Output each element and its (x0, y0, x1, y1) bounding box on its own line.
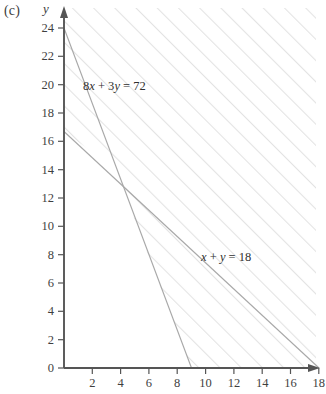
eq2-tail: = 18 (225, 250, 251, 264)
equation-label-8x-3y-72: 8x + 3y = 72 (83, 79, 146, 94)
x-tick-label-8: 8 (174, 376, 180, 391)
x-tick-label-6: 6 (146, 376, 152, 391)
x-tick-label-12: 12 (228, 376, 241, 391)
x-tick-label-18: 18 (313, 376, 326, 391)
eq2-mid: + (207, 250, 220, 264)
y-tick-label-24: 24 (42, 21, 55, 36)
y-tick-label-0: 0 (48, 361, 54, 376)
shaded-region (64, 8, 316, 368)
y-tick-label-14: 14 (42, 162, 55, 177)
y-tick-label-6: 6 (48, 276, 54, 291)
graph-figure: (c) y (0, 0, 326, 394)
y-tick-label-8: 8 (48, 247, 54, 262)
y-tick-label-10: 10 (42, 219, 55, 234)
x-tick-label-10: 10 (199, 376, 212, 391)
y-tick-label-4: 4 (48, 304, 54, 319)
eq1-tail: = 72 (120, 79, 146, 93)
equation-label-x-y-18: x + y = 18 (201, 250, 251, 265)
y-tick-label-2: 2 (48, 332, 54, 347)
x-tick-label-4: 4 (117, 376, 123, 391)
y-tick-label-22: 22 (42, 49, 55, 64)
x-tick-label-2: 2 (89, 376, 95, 391)
y-tick-label-18: 18 (42, 106, 55, 121)
y-tick-label-20: 20 (42, 77, 55, 92)
x-tick-label-16: 16 (284, 376, 297, 391)
y-tick-label-16: 16 (42, 134, 55, 149)
eq1-mid: + 3 (95, 79, 115, 93)
x-tick-label-14: 14 (256, 376, 269, 391)
y-tick-label-12: 12 (42, 191, 55, 206)
